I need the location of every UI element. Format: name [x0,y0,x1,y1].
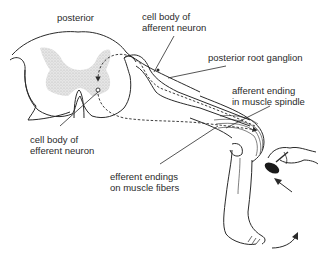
spinal-cord-section [10,32,200,120]
reflex-arc-diagram [0,0,320,260]
label-afferent-ending-2: in muscle spindle [232,96,305,107]
label-cell-body-afferent-2: afferent neuron [142,22,206,33]
label-posterior-root-ganglion: posterior root ganglion [208,52,303,63]
label-cell-body-efferent-2: efferent neuron [30,145,94,156]
kick-arrow-icon [272,232,298,248]
efferent-cell-body [96,88,100,92]
afferent-cell-body [157,69,160,72]
label-afferent-ending-1: afferent ending [232,85,295,96]
label-efferent-endings-1: efferent endings [110,171,178,182]
hand-with-hammer [263,147,318,175]
reflex-hammer-icon [263,160,281,176]
label-cell-body-efferent-1: cell body of [30,134,78,145]
label-posterior: posterior [57,12,94,23]
label-cell-body-afferent-1: cell body of [142,11,190,22]
label-efferent-endings-2: on muscle fibers [110,182,179,193]
tap-arrow-icon [274,178,292,192]
